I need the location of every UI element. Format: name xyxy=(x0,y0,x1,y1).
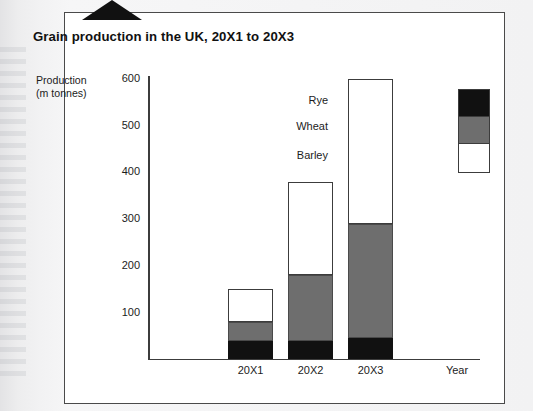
bar-segment-wheat xyxy=(348,224,393,338)
legend-swatch-rye xyxy=(459,90,489,116)
y-axis-line xyxy=(148,76,150,360)
y-axis-tick-label: 600 xyxy=(96,72,140,84)
bar-segment-wheat xyxy=(228,322,273,341)
y-axis-tick-label: 500 xyxy=(96,119,140,131)
legend-label-barley: Barley xyxy=(268,149,328,161)
y-axis-tick-label: 100 xyxy=(96,306,140,318)
stacked-bar xyxy=(288,182,333,360)
legend-swatch-wheat xyxy=(459,116,489,144)
x-axis-title: Year xyxy=(432,364,482,376)
bar-segment-barley xyxy=(228,289,273,322)
legend-swatch-column xyxy=(458,89,490,173)
stacked-bar xyxy=(348,79,393,359)
bar-segment-rye xyxy=(228,341,273,360)
legend-swatch-barley xyxy=(459,144,489,172)
stacked-bar xyxy=(228,289,273,359)
y-axis-tick-label: 200 xyxy=(96,259,140,271)
bar-segment-rye xyxy=(288,341,333,360)
legend-label-wheat: Wheat xyxy=(268,120,328,132)
x-axis-tick-label: 20X3 xyxy=(336,364,406,376)
bar-segment-wheat xyxy=(288,275,333,340)
chart-plot-area: Production (m tonnes) 100200300400500600… xyxy=(0,0,533,411)
y-axis-title-line1: Production xyxy=(36,74,87,87)
y-axis-tick-label: 300 xyxy=(96,212,140,224)
y-axis-title-line2: (m tonnes) xyxy=(36,87,87,100)
bar-segment-rye xyxy=(348,338,393,359)
y-axis-title: Production (m tonnes) xyxy=(36,74,87,100)
legend-label-rye: Rye xyxy=(268,94,328,106)
bar-segment-barley xyxy=(348,79,393,224)
bar-segment-barley xyxy=(288,182,333,275)
y-axis-tick-label: 400 xyxy=(96,165,140,177)
